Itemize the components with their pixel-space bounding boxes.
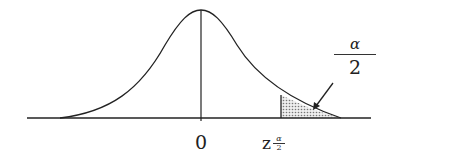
tail-area-label: α 2 <box>334 36 376 77</box>
z-subscript-fraction: α 2 <box>273 135 285 152</box>
critical-value-label: z α 2 <box>262 133 285 153</box>
normal-curve-figure <box>0 0 471 157</box>
z-subscript-denominator: 2 <box>276 144 281 152</box>
z-subscript-numerator: α <box>276 135 281 143</box>
arrow-line <box>316 83 333 106</box>
z-symbol: z <box>262 133 271 153</box>
mean-label: 0 <box>195 131 207 153</box>
tail-area-denominator: 2 <box>349 57 361 77</box>
tail-area-fraction-bar <box>334 54 376 55</box>
tail-area-numerator: α <box>350 36 360 52</box>
